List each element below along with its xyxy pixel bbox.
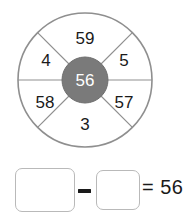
subtrahend-input[interactable] (96, 170, 140, 210)
wheel-segment-upper-right: 5 (119, 52, 128, 69)
minuend-input[interactable] (15, 168, 75, 212)
number-wheel-graphic (0, 0, 190, 158)
wheel-center-value: 56 (76, 72, 95, 89)
wheel-segment-lower-left: 58 (36, 94, 55, 111)
equation-result: = 56 (142, 177, 183, 197)
worksheet-page: 56 59 5 57 3 58 4 = 56 (0, 0, 190, 220)
wheel-segment-top: 59 (76, 30, 95, 47)
wheel-segment-upper-left: 4 (41, 52, 50, 69)
wheel-segment-bottom: 3 (80, 116, 89, 133)
minus-operator-icon (78, 189, 91, 193)
wheel-segment-lower-right: 57 (115, 94, 134, 111)
subtraction-equation: = 56 (0, 158, 190, 220)
number-wheel: 56 59 5 57 3 58 4 (0, 0, 190, 158)
